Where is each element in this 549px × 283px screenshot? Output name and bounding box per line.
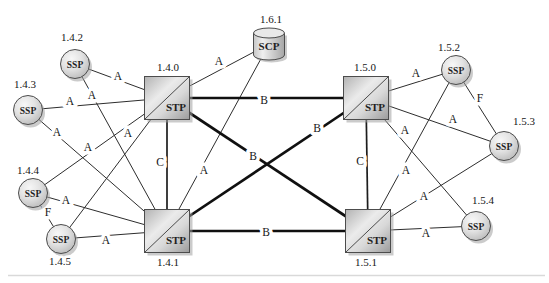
node-ssp-1.5.3: SSP1.5.3 bbox=[490, 115, 536, 164]
link-label-A-1.5.0-1.5.2: A bbox=[412, 67, 421, 79]
link-A-1.6.1-1.4.1 bbox=[167, 44, 269, 231]
link-label-A-1.4.4-1.4.0: A bbox=[84, 141, 93, 153]
link-label-B-1.4.0-1.5.0: B bbox=[260, 94, 268, 106]
ssp-text: SSP bbox=[496, 142, 513, 152]
node-stp-1.5.0: STP1.5.0 bbox=[344, 61, 392, 123]
link-label-B-1.4.0-1.5.1: B bbox=[249, 150, 257, 162]
node-point-code-label: 1.6.1 bbox=[260, 13, 282, 25]
ssp-text: SSP bbox=[448, 66, 465, 76]
node-ssp-1.4.4: SSP1.4.4 bbox=[17, 164, 50, 211]
link-label-A-1.5.0-1.5.4: A bbox=[401, 124, 410, 136]
link-label-A-1.6.1-1.4.0: A bbox=[215, 55, 224, 67]
link-label-A-1.4.5-1.4.0: A bbox=[124, 127, 133, 139]
node-point-code-label: 1.5.1 bbox=[355, 256, 377, 268]
ssp-text: SSP bbox=[67, 60, 84, 70]
scp-cylinder-top bbox=[254, 28, 285, 38]
node-point-code-label: 1.4.1 bbox=[157, 256, 179, 268]
link-label-A-1.4.5-1.4.1: A bbox=[102, 234, 111, 246]
link-label-A-1.4.3-1.4.1: A bbox=[53, 126, 62, 138]
link-label-B-1.4.1-1.5.1: B bbox=[262, 226, 270, 238]
ssp-text: SSP bbox=[20, 106, 37, 116]
node-point-code-label: 1.4.0 bbox=[157, 61, 180, 73]
link-label-A-1.4.2-1.4.1: A bbox=[88, 89, 97, 101]
scp-text: SCP bbox=[259, 40, 280, 52]
link-label-C-1.5.0-1.5.1: C bbox=[356, 155, 364, 167]
link-label-A-1.4.4-1.4.1: A bbox=[62, 194, 71, 206]
stp-text: STP bbox=[365, 101, 385, 113]
node-scp-1.6.1: SCP1.6.1 bbox=[254, 13, 288, 63]
node-ssp-1.5.2: SSP1.5.2 bbox=[438, 41, 473, 88]
link-label-A-1.4.2-1.4.0: A bbox=[114, 70, 123, 82]
ss7-network-diagram: AAAAAAAAFAABBBBCCAAAAAAF STP1.4.0STP1.4.… bbox=[0, 0, 549, 283]
ssp-text: SSP bbox=[468, 222, 485, 232]
node-ssp-1.4.3: SSP1.4.3 bbox=[14, 78, 46, 128]
link-label-A-1.5.1-1.5.3: A bbox=[420, 190, 429, 202]
link-label-A-1.4.3-1.4.0: A bbox=[66, 95, 75, 107]
node-point-code-label: 1.4.2 bbox=[61, 31, 83, 43]
link-label-F-1.4.4-1.4.5: F bbox=[45, 206, 51, 218]
link-label-A-1.5.1-1.5.4: A bbox=[422, 227, 431, 239]
ss7-network-figure: AAAAAAAAFAABBBBCCAAAAAAF STP1.4.0STP1.4.… bbox=[0, 0, 549, 283]
node-point-code-label: 1.4.5 bbox=[49, 255, 72, 267]
stp-text: STP bbox=[166, 234, 186, 246]
node-point-code-label: 1.5.3 bbox=[513, 115, 536, 127]
ssp-text: SSP bbox=[25, 189, 42, 199]
node-stp-1.5.1: STP1.5.1 bbox=[346, 210, 394, 269]
node-stp-1.4.0: STP1.4.0 bbox=[145, 61, 193, 123]
node-ssp-1.4.2: SSP1.4.2 bbox=[61, 31, 93, 82]
stp-text: STP bbox=[166, 101, 186, 113]
node-point-code-label: 1.4.4 bbox=[17, 164, 40, 176]
node-stp-1.4.1: STP1.4.1 bbox=[145, 210, 193, 269]
node-ssp-1.5.4: SSP1.5.4 bbox=[462, 194, 495, 244]
link-label-A-1.5.0-1.5.3: A bbox=[449, 113, 458, 125]
link-label-C-1.4.0-1.4.1: C bbox=[156, 156, 164, 168]
node-point-code-label: 1.5.4 bbox=[472, 194, 495, 206]
stp-text: STP bbox=[367, 234, 387, 246]
node-point-code-label: 1.4.3 bbox=[14, 78, 37, 90]
node-ssp-1.4.5: SSP1.4.5 bbox=[47, 225, 79, 268]
ssp-text: SSP bbox=[53, 235, 70, 245]
link-label-A-1.5.1-1.5.2: A bbox=[402, 164, 411, 176]
link-label-F-1.5.2-1.5.3: F bbox=[477, 92, 483, 104]
node-point-code-label: 1.5.0 bbox=[354, 61, 377, 73]
link-label-B-1.4.1-1.5.0: B bbox=[313, 122, 321, 134]
node-point-code-label: 1.5.2 bbox=[438, 41, 460, 53]
link-label-A-1.6.1-1.4.1: A bbox=[200, 164, 209, 176]
